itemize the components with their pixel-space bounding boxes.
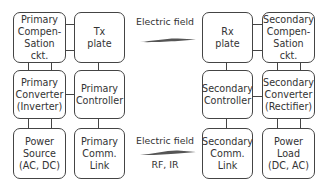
secondary-comm-link-box: Secondary Comm. Link [202,128,253,179]
connector-comp-converter-right-sec [300,62,301,70]
connector-comp-converter-right [51,62,52,70]
power-source-box: Power Source (AC, DC) [13,128,66,179]
primary-compensation-circuit-box: Primary Compen- Sation ckt. [13,12,66,63]
connector-controller-comm [98,118,99,128]
primary-converter-box: Primary Converter (Inverter) [13,70,66,119]
connector-controller-comm-sec [226,118,227,128]
connector-converter-load-right [300,118,301,128]
connector-converter-controller [65,94,74,95]
power-load-box: Power Load (DC, AC) [262,128,315,179]
connector-comp-tx-bottom [65,50,74,51]
secondary-compensation-circuit-box: Secondary Compen- Sation ckt. [262,12,315,63]
comm-link-label: Electric field [135,135,195,146]
connector-tx-controller [98,62,99,70]
connector-rx-controller [226,62,227,70]
secondary-converter-box: Secondary Converter (Rectifier) [262,70,315,119]
primary-comm-link-box: Primary Comm. Link [74,128,125,179]
comm-link-sublabel: RF, IR [135,159,195,170]
connector-comp-converter-left-sec [277,62,278,70]
power-link-arrow-icon [138,36,198,46]
primary-controller-box: Primary Controller [74,70,125,119]
comm-link-arrow-icon [138,148,198,158]
connector-converter-source-right [51,118,52,128]
connector-converter-source-left [28,118,29,128]
power-link-label: Electric field [135,16,195,27]
secondary-controller-box: Secondary Controller [202,70,253,119]
tx-plate-box: Tx plate [74,12,125,63]
rx-plate-box: Rx plate [202,12,253,63]
connector-comp-converter-left [28,62,29,70]
connector-controller-converter-sec [252,96,262,97]
connector-rx-comp-top [252,24,262,25]
connector-converter-load-left [277,118,278,128]
connector-comp-tx-top [65,24,74,25]
connector-rx-comp-bottom [252,50,262,51]
